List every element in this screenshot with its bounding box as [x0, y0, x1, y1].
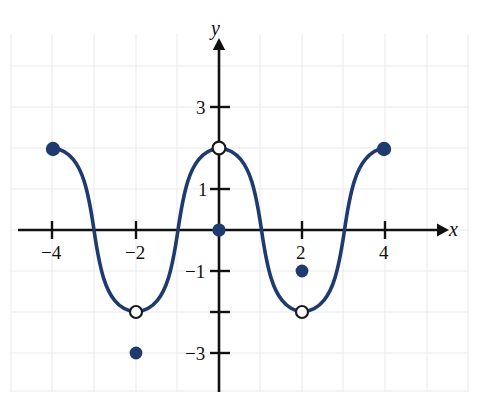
- x-axis-label: x: [449, 219, 458, 239]
- y-tick-label-1: 1: [198, 180, 208, 199]
- point-filled-pos2-neg1: [296, 265, 309, 278]
- x-tick-label--2: −2: [125, 243, 145, 262]
- point-open-neg2-neg2: [130, 306, 142, 318]
- point-open-0-2: [213, 142, 226, 155]
- y-tick-label--1: −1: [185, 262, 205, 281]
- coordinate-plane: [0, 0, 479, 405]
- x-tick-label--4: −4: [41, 243, 61, 262]
- point-filled-neg2-neg3: [130, 347, 143, 360]
- point-filled-left-endpoint: [46, 142, 60, 156]
- x-tick-label-4: 4: [379, 243, 389, 262]
- grid-lines: [11, 34, 468, 392]
- y-tick-label-3: 3: [196, 98, 206, 117]
- point-filled-origin: [212, 223, 225, 236]
- y-axis: [213, 38, 225, 392]
- point-filled-right-endpoint: [377, 142, 391, 156]
- y-tick-label--3: −3: [185, 344, 205, 363]
- x-tick-label-2: 2: [296, 243, 306, 262]
- y-axis-label: y: [211, 18, 220, 38]
- point-open-pos2-neg2: [296, 306, 308, 318]
- graph-figure: −4 −2 2 4 3 1 −1 −3 x y: [0, 0, 479, 405]
